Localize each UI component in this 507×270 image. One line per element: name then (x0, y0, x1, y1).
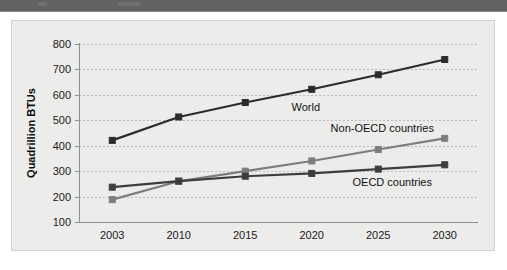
y-tick-label: 400 (53, 140, 71, 152)
series-marker (375, 72, 381, 78)
x-tick-label: 2015 (233, 229, 257, 241)
y-tick-label: 100 (53, 216, 71, 228)
header-mark-right (118, 2, 140, 6)
series-marker (242, 173, 248, 179)
series-annotation-label: OECD countries (353, 176, 433, 188)
page-header-bar (0, 0, 507, 12)
header-mark-left (38, 2, 47, 6)
series-marker (176, 178, 182, 184)
x-tick-label: 2010 (167, 229, 191, 241)
x-tick-label: 2030 (433, 229, 457, 241)
y-tick-label: 600 (53, 89, 71, 101)
line-chart: 100200300400500600700800 200320102015202… (12, 21, 496, 252)
series-marker (109, 197, 115, 203)
x-tick-label: 2003 (100, 229, 124, 241)
series-marker (442, 57, 448, 63)
y-tick-label: 800 (53, 38, 71, 50)
x-tick-label: 2020 (300, 229, 324, 241)
y-tick-label: 500 (53, 114, 71, 126)
series-marker (109, 137, 115, 143)
chart-panel: 100200300400500600700800 200320102015202… (11, 20, 495, 251)
series-marker (442, 135, 448, 141)
series-annotation-label: Non-OECD countries (331, 122, 435, 134)
y-axis-title-text: Quadrillion BTUs (25, 88, 37, 178)
series-marker (375, 166, 381, 172)
series-marker (375, 147, 381, 153)
x-tick-label: 2025 (366, 229, 390, 241)
x-axis-tick-labels: 200320102015202020252030 (100, 229, 457, 241)
series-marker (242, 99, 248, 105)
y-axis-title: Quadrillion BTUs (25, 88, 37, 178)
y-tick-label: 300 (53, 165, 71, 177)
series-marker (309, 158, 315, 164)
series-marker (309, 170, 315, 176)
series-marker (442, 162, 448, 168)
y-axis-tick-labels: 100200300400500600700800 (53, 38, 71, 228)
y-tick-label: 200 (53, 191, 71, 203)
series-marker (176, 114, 182, 120)
series-annotation-label: World (291, 101, 320, 113)
series-marker (309, 86, 315, 92)
y-tick-label: 700 (53, 63, 71, 75)
series-marker (109, 184, 115, 190)
